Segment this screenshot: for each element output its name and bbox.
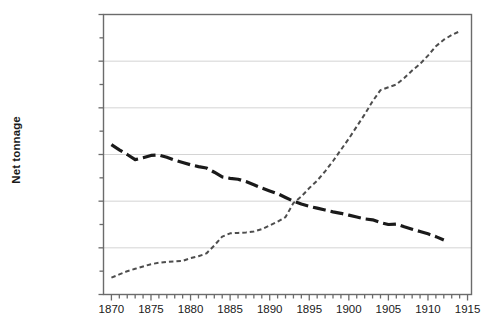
chart-container: Net tonnage 05,000,00010,000,00015,000,0…: [0, 0, 500, 332]
gridlines: [104, 15, 472, 248]
plot-area: [0, 0, 500, 332]
series-line-sail: [111, 145, 443, 240]
y-tick-marks: [99, 15, 104, 295]
x-tick-marks: [111, 295, 467, 301]
